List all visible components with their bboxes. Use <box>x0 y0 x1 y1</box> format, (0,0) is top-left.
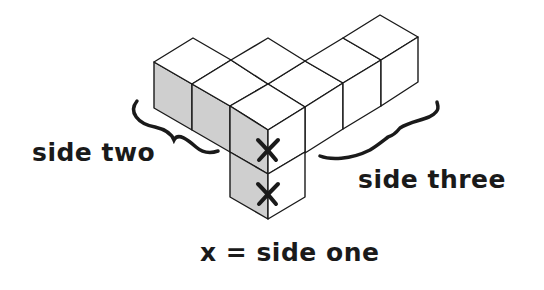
label-side-one-key: x = side one <box>200 238 379 267</box>
label-side-two: side two <box>32 138 155 167</box>
label-side-three: side three <box>358 165 506 194</box>
